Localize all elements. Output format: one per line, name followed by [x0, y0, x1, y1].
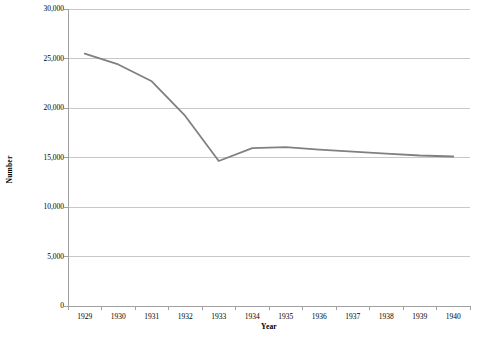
series-line-number — [85, 54, 454, 161]
gridlines — [68, 9, 470, 257]
chart-container: Number 05,00010,00015,00020,00025,00030,… — [0, 0, 482, 339]
axis-ticks — [64, 9, 470, 310]
data-series-line — [85, 54, 454, 161]
x-axis-title: Year — [68, 322, 470, 331]
plot-area — [0, 0, 482, 339]
